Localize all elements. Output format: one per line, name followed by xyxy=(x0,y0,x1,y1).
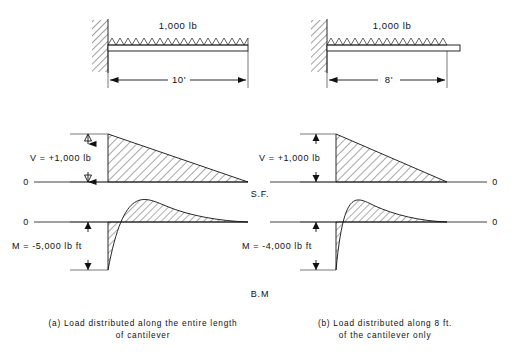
shear-value-label-a: V = +1,000 lb xyxy=(30,153,91,163)
panel-a-beam-group: 1,000 lb 10' xyxy=(92,19,248,88)
caption-a-line2: of cantilever xyxy=(116,330,170,340)
shear-zero-label-a: 0 xyxy=(23,177,29,187)
figure-root: 1,000 lb 10' 1,000 lb 8 xyxy=(0,0,520,352)
panel-b-moment-group: 0 M = -4,000 lb ft xyxy=(242,200,498,270)
beam-diagram-svg: 1,000 lb 10' 1,000 lb 8 xyxy=(0,0,520,352)
moment-zero-label-b: 0 xyxy=(492,217,498,227)
span-label-a: 10' xyxy=(172,74,186,85)
wall-support-a xyxy=(92,19,108,73)
shear-value-label-b: V = +1,000 lb xyxy=(259,153,320,163)
caption-b: (b) Load distributed along 8 ft. of the … xyxy=(318,318,452,340)
span-dimension-b: 8' xyxy=(329,74,445,85)
panel-b-beam-group: 1,000 lb 8' xyxy=(311,19,460,88)
moment-value-label-b: M = -4,000 lb ft xyxy=(242,241,312,251)
moment-value-dimension-b xyxy=(313,222,320,270)
moment-value-dimension-a xyxy=(85,222,92,270)
caption-a: (a) Load distributed along the entire le… xyxy=(49,318,238,340)
section-label-moment: B.M xyxy=(251,289,269,299)
moment-zero-label-a: 0 xyxy=(23,217,29,227)
load-label-a: 1,000 lb xyxy=(159,20,198,31)
distributed-load-zigzag-b xyxy=(327,38,447,45)
panel-b-shear-group: 0 V = +1,000 lb xyxy=(259,134,498,187)
span-dimension-a: 10' xyxy=(110,74,246,85)
panel-a-moment-group: 0 M = -5,000 lb ft xyxy=(12,199,248,270)
caption-b-line2: of the cantilever only xyxy=(339,330,432,340)
beam-a xyxy=(108,45,248,51)
caption-a-line1: (a) Load distributed along the entire le… xyxy=(49,318,238,328)
wall-support-b xyxy=(311,19,327,73)
shear-area-a xyxy=(108,134,248,182)
moment-value-label-a: M = -5,000 lb ft xyxy=(12,241,82,251)
load-label-b: 1,000 lb xyxy=(373,20,412,31)
distributed-load-zigzag-a xyxy=(108,38,248,45)
caption-b-line1: (b) Load distributed along 8 ft. xyxy=(318,318,452,328)
moment-area-b xyxy=(336,200,447,270)
section-label-shear: S.F. xyxy=(251,189,270,199)
beam-b xyxy=(327,45,460,51)
shear-area-b xyxy=(336,134,447,182)
shear-zero-label-b: 0 xyxy=(492,177,498,187)
panel-a-shear-group: 0 V = +1,000 lb xyxy=(23,134,248,187)
span-label-b: 8' xyxy=(385,74,393,85)
moment-area-a xyxy=(108,199,248,270)
